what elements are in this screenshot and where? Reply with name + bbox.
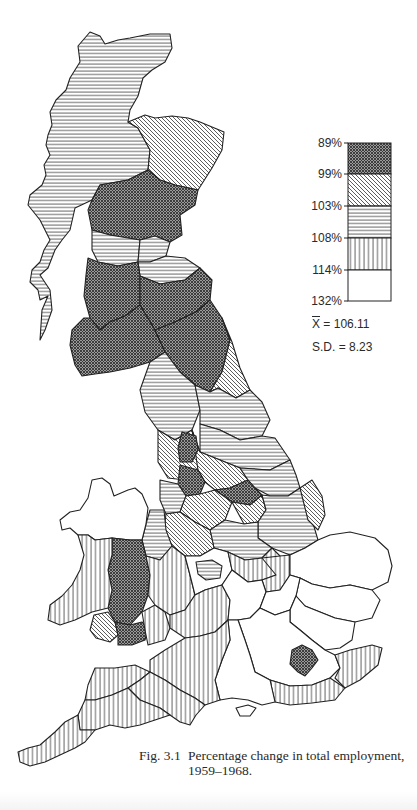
region-gwynedd <box>60 478 148 540</box>
page-edge <box>0 792 417 810</box>
legend-break-label: 114% <box>312 264 342 276</box>
legend-break-label: 99% <box>318 168 342 180</box>
figure-caption: Fig. 3.1Percentage change in total emplo… <box>139 748 417 778</box>
region-mid-glamorgan <box>115 622 148 645</box>
legend-break-label: 103% <box>311 200 342 212</box>
sd-statistic: S.D. = 8.23 <box>312 340 412 354</box>
choropleth-map <box>0 0 417 810</box>
legend-swatch-89-99 <box>348 143 391 174</box>
legend-break-label: 108% <box>311 232 342 244</box>
mean-statistic: X = 106.11 <box>312 317 412 331</box>
legend-swatch-103-108 <box>348 206 391 238</box>
region-isle-of-wight <box>236 705 256 716</box>
region-dyfed <box>48 535 112 625</box>
caption-line-1: Percentage change in total employment, <box>188 748 404 763</box>
caption-line-2: 1959–1968. <box>139 763 417 778</box>
legend-swatch-114-132 <box>348 270 391 301</box>
legend-break-label: 132% <box>311 295 342 307</box>
legend-swatch-108-114 <box>348 238 391 270</box>
legend: 89% 99% 103% 108% 114% 132% <box>300 135 417 335</box>
legend-break-label: 89% <box>318 137 342 149</box>
mean-symbol: X <box>312 317 320 331</box>
region-kent <box>335 645 382 688</box>
figure-number: Fig. 3.1 <box>139 748 188 763</box>
legend-swatch-99-103 <box>348 174 391 206</box>
mean-value: = 106.11 <box>323 317 369 331</box>
